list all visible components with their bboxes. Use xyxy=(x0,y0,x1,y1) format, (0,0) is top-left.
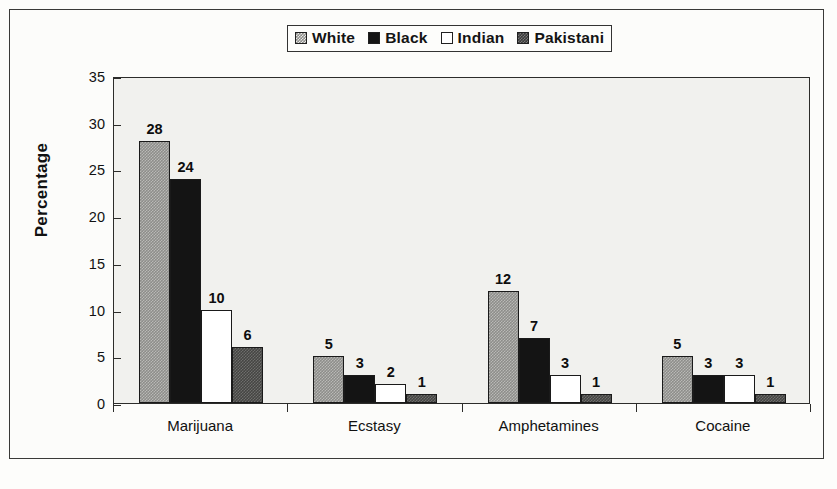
legend-item-label: Black xyxy=(385,29,427,47)
legend-item-pakistani[interactable]: Pakistani xyxy=(517,29,604,47)
y-axis-tick-label: 35 xyxy=(71,69,105,85)
x-axis-edge-tick xyxy=(113,404,114,412)
bar-value-label: 1 xyxy=(750,374,790,390)
bar-rect[interactable] xyxy=(581,394,612,403)
bar-value-label: 3 xyxy=(719,355,759,371)
bar-cocaine-pakistani[interactable]: 1 xyxy=(755,78,786,403)
chart-figure: WhiteBlackIndianPakistani Percentage 282… xyxy=(0,0,837,489)
legend-item-label: Pakistani xyxy=(534,29,604,47)
bar-group-bars: 5331 xyxy=(637,78,811,403)
x-axis-group-separator xyxy=(462,404,463,412)
light-gray-dither-swatch xyxy=(295,32,307,44)
legend-item-white[interactable]: White xyxy=(295,29,355,47)
bar-group-bars: 2824106 xyxy=(114,78,288,403)
bar-amphetamines-indian[interactable]: 3 xyxy=(550,78,581,403)
plot-inner: 28241065321127315331 xyxy=(114,78,809,403)
bar-value-label: 7 xyxy=(514,318,554,334)
y-axis-tick-label: 0 xyxy=(71,396,105,412)
y-axis-tick-label: 10 xyxy=(71,303,105,319)
bar-value-label: 1 xyxy=(402,374,442,390)
bar-rect[interactable] xyxy=(406,394,437,403)
bar-group-bars: 5321 xyxy=(288,78,462,403)
x-axis-edge-tick xyxy=(810,404,811,412)
bar-cocaine-indian[interactable]: 3 xyxy=(724,78,755,403)
plot-area: 28241065321127315331 xyxy=(113,77,810,404)
black-swatch xyxy=(368,32,380,44)
bar-value-label: 10 xyxy=(197,290,237,306)
y-axis-title: Percentage xyxy=(32,100,52,280)
bar-rect[interactable] xyxy=(488,291,519,403)
bar-ecstasy-pakistani[interactable]: 1 xyxy=(406,78,437,403)
bar-rect[interactable] xyxy=(755,394,786,403)
bar-rect[interactable] xyxy=(232,347,263,403)
legend-item-black[interactable]: Black xyxy=(368,29,427,47)
x-axis-group-separator xyxy=(287,404,288,412)
bar-amphetamines-pakistani[interactable]: 1 xyxy=(581,78,612,403)
bar-ecstasy-indian[interactable]: 2 xyxy=(375,78,406,403)
bar-value-label: 6 xyxy=(228,327,268,343)
bar-value-label: 1 xyxy=(576,374,616,390)
y-axis-tick-label: 15 xyxy=(71,256,105,272)
y-axis-tick-label: 5 xyxy=(71,349,105,365)
bar-value-label: 3 xyxy=(545,355,585,371)
chart-legend: WhiteBlackIndianPakistani xyxy=(287,25,612,52)
x-axis-category-label: Marijuana xyxy=(167,417,233,434)
y-axis-tick-mark xyxy=(114,405,121,406)
bar-value-label: 5 xyxy=(657,336,697,352)
bar-value-label: 12 xyxy=(483,271,523,287)
bar-marijuana-black[interactable]: 24 xyxy=(170,78,201,403)
bar-group-bars: 12731 xyxy=(463,78,637,403)
x-axis-category-label: Ecstasy xyxy=(348,417,401,434)
bar-rect[interactable] xyxy=(693,375,724,403)
bar-amphetamines-white[interactable]: 12 xyxy=(488,78,519,403)
bar-marijuana-indian[interactable]: 10 xyxy=(201,78,232,403)
y-axis-tick-label: 20 xyxy=(71,209,105,225)
bar-value-label: 5 xyxy=(309,336,349,352)
bar-marijuana-pakistani[interactable]: 6 xyxy=(232,78,263,403)
legend-item-indian[interactable]: Indian xyxy=(441,29,505,47)
bar-value-label: 24 xyxy=(166,159,206,175)
bar-rect[interactable] xyxy=(139,141,170,403)
white-swatch xyxy=(441,32,453,44)
bar-group-ecstasy: 5321 xyxy=(288,78,462,403)
bar-group-amphetamines: 12731 xyxy=(463,78,637,403)
y-axis-tick-label: 25 xyxy=(71,162,105,178)
legend-item-label: Indian xyxy=(458,29,505,47)
x-axis-category-label: Cocaine xyxy=(695,417,750,434)
bar-group-cocaine: 5331 xyxy=(637,78,811,403)
y-axis-tick-label: 30 xyxy=(71,116,105,132)
bar-value-label: 28 xyxy=(135,121,175,137)
legend-item-label: White xyxy=(312,29,355,47)
bar-marijuana-white[interactable]: 28 xyxy=(139,78,170,403)
x-axis-category-label: Amphetamines xyxy=(499,417,599,434)
dark-gray-dither-swatch xyxy=(517,32,529,44)
x-axis-group-separator xyxy=(636,404,637,412)
bar-ecstasy-black[interactable]: 3 xyxy=(344,78,375,403)
bar-rect[interactable] xyxy=(201,310,232,403)
bar-group-marijuana: 2824106 xyxy=(114,78,288,403)
